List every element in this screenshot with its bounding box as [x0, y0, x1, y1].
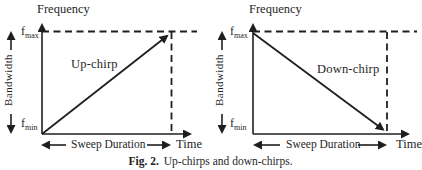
down-chirp-panel: Frequency fmax fmin Down-chirp Time Swee… — [211, 0, 421, 156]
figure-caption-number: Fig. 2. — [128, 155, 158, 167]
sweep-duration-label: Sweep Duration — [286, 139, 360, 151]
fmin-label: fmin — [230, 117, 246, 129]
bandwidth-axis-label: Bandwidth — [3, 54, 14, 106]
up-chirp-label: Up-chirp — [71, 58, 118, 71]
time-axis-label: Time — [176, 138, 202, 151]
frequency-axis-label: Frequency — [37, 3, 90, 16]
time-axis-label: Time — [396, 138, 422, 151]
frequency-axis-label: Frequency — [249, 3, 302, 16]
fmax-label: fmax — [230, 25, 248, 37]
figure-caption: Fig. 2.Up-chirps and down-chirps. — [0, 155, 421, 169]
fmax-label: fmax — [21, 25, 39, 37]
up-chirp-diagram-svg — [0, 0, 210, 156]
figure-caption-text: Up-chirps and down-chirps. — [164, 155, 293, 167]
up-chirp-panel: Frequency fmax fmin Up-chirp Time Sweep … — [0, 0, 210, 156]
down-chirp-label: Down-chirp — [317, 63, 379, 76]
sweep-duration-label: Sweep Duration — [71, 139, 145, 151]
down-chirp-line — [253, 33, 383, 130]
down-chirp-diagram-svg — [211, 0, 421, 156]
bandwidth-axis-label: Bandwidth — [214, 54, 225, 106]
up-chirp-line — [42, 36, 167, 134]
fmin-label: fmin — [21, 117, 37, 129]
